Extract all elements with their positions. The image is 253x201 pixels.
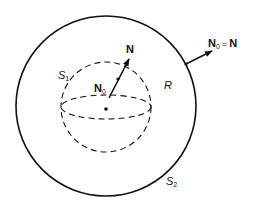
surfaces-diagram: N N0 S1 R S2 N0=N	[0, 0, 253, 201]
outer-normal-label: N0=N	[208, 37, 237, 50]
center-point	[104, 107, 108, 111]
region-label: R	[164, 79, 172, 91]
outer-normal-vector	[186, 51, 212, 64]
inner-surface-s1	[61, 62, 151, 152]
inner-surface-equator	[61, 95, 151, 119]
inner-normal-dot	[116, 77, 119, 80]
inner-normal-base-label: N0	[94, 82, 106, 95]
outer-surface-s2	[16, 16, 196, 196]
inner-normal-tip-label: N	[126, 43, 134, 55]
outer-surface-label: S2	[166, 175, 177, 188]
inner-surface-label: S1	[58, 69, 69, 82]
